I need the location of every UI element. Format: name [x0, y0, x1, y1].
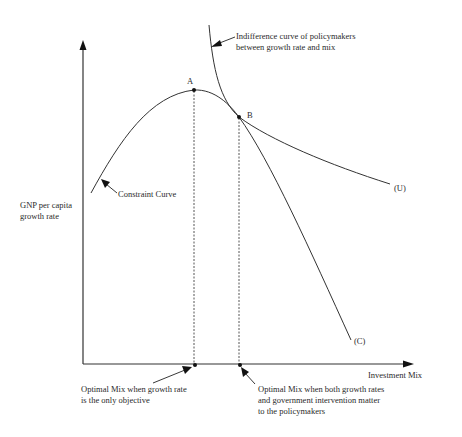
- diagram-canvas: A B (U) (C) Indifference curve of policy…: [0, 0, 462, 437]
- optimal-both-line3: to the policymakers: [258, 406, 325, 416]
- optimal-growth-arrowhead: [182, 366, 192, 374]
- optimal-growth-arrow: [153, 370, 185, 383]
- x-point-b: [238, 363, 242, 367]
- optimal-both-line1: Optimal Mix when both growth rates: [258, 384, 384, 394]
- constraint-curve-label: Constraint Curve: [118, 189, 177, 199]
- y-axis-label-line2: growth rate: [20, 211, 59, 221]
- point-a: [192, 88, 196, 92]
- x-point-a: [193, 363, 197, 367]
- constraint-curve: [91, 90, 351, 340]
- point-b-label: B: [247, 110, 253, 120]
- point-b: [237, 115, 241, 119]
- y-axis-label-line1: GNP per capita: [20, 200, 72, 210]
- indifference-annotation-line1: Indifference curve of policymakers: [236, 31, 356, 41]
- indifference-annotation-line2: between growth rate and mix: [236, 42, 336, 52]
- optimal-both-arrow: [245, 373, 255, 384]
- point-a-label: A: [187, 76, 194, 86]
- c-label: (C): [354, 336, 366, 346]
- optimal-both-line2: and government intervention matter: [258, 395, 380, 405]
- x-axis-label: Investment Mix: [368, 370, 423, 380]
- indifference-arrowhead: [211, 40, 222, 47]
- constraint-arrow: [106, 184, 117, 193]
- u-label: (U): [394, 183, 406, 193]
- optimal-growth-line1: Optimal Mix when growth rate: [81, 384, 187, 394]
- optimal-growth-line2: is the only objective: [81, 395, 150, 405]
- x-axis-arrowhead: [403, 361, 414, 368]
- y-axis-arrowhead: [80, 40, 87, 50]
